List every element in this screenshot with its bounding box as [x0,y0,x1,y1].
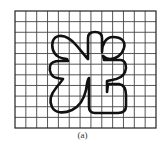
figure-caption: (a) [0,130,165,140]
grid-figure [0,0,165,149]
grid-lines [15,11,156,128]
character-outline-shape [50,32,126,113]
grid-border [15,11,156,128]
